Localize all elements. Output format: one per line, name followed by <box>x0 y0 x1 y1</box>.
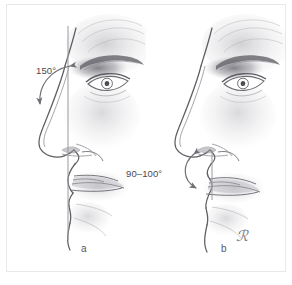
panel-caption-a: a <box>81 243 87 254</box>
panel-a <box>6 4 146 272</box>
angle-arc-arrow-b <box>185 154 196 188</box>
figure-root: 150° 90–100° a b ℛ <box>0 0 292 285</box>
panel-b <box>146 4 286 272</box>
profile-drawing-b <box>146 4 286 272</box>
face-shading-b <box>200 14 286 236</box>
angle-label-nasolabial: 90–100° <box>126 168 162 179</box>
artist-signature: ℛ <box>236 227 248 245</box>
panel-caption-b: b <box>221 243 227 254</box>
face-shading-a <box>64 14 146 234</box>
angle-label-nasofrontal: 150° <box>36 65 56 76</box>
profile-drawing-a <box>6 4 146 272</box>
